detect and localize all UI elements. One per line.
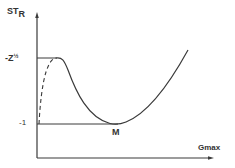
x-axis-arrow-icon — [208, 156, 214, 160]
minimum-point-label: M — [112, 128, 120, 137]
dashed-curve — [39, 58, 57, 124]
tick-label-minus-one: -1 — [19, 119, 26, 127]
x-axis-label: Gmax — [198, 144, 220, 152]
tick-label-z: -Z½ — [5, 53, 19, 63]
solid-curve — [56, 50, 188, 124]
y-axis-label: STR — [7, 7, 25, 19]
y-axis-arrow-icon — [35, 12, 39, 18]
